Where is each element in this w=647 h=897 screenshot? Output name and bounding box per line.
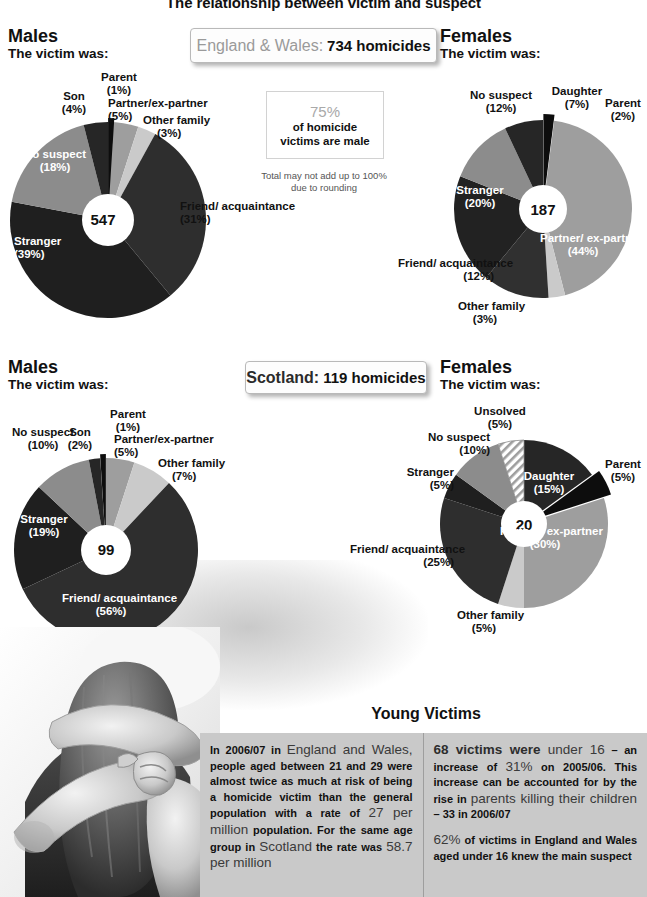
heading-ew-males: Males The victim was:	[8, 27, 109, 62]
pie-label-partner-ex-partner: Partner/ex-partner(5%)	[114, 433, 214, 458]
fact-callout-box: 75% of homicide victims are male	[266, 91, 384, 159]
region-count: 734 homicides	[327, 37, 430, 54]
gender-title: Females	[440, 27, 541, 46]
region-label: England & Wales:	[197, 37, 324, 55]
gender-title: Males	[8, 27, 109, 46]
pie-label-stranger: Stranger(5%)	[378, 466, 454, 491]
young-victims-panel: In 2006/07 in England and Wales, people …	[200, 733, 647, 897]
pie-label-other-family: Other family(3%)	[458, 300, 512, 325]
young-victims-paragraph-right-1: 68 victims were under 16 – an increase o…	[434, 742, 638, 823]
pie-label-partner-ex-partner: Partner/ ex-partner(30%)	[500, 525, 590, 550]
gender-subtitle: The victim was:	[8, 377, 109, 393]
gender-title: Males	[8, 358, 109, 377]
pie-label-friend-acquaintance: Friend/ acquaintance(12%)	[398, 257, 494, 282]
region-label: Scotland:	[246, 369, 319, 387]
pie-label-daughter: Daughter(7%)	[546, 85, 608, 110]
pie-label-stranger: Stranger(39%)	[14, 235, 61, 260]
pie-label-no-suspect: No suspect(18%)	[15, 148, 95, 173]
gender-subtitle: The victim was:	[8, 46, 109, 62]
infographic-page: The relationship between victim and susp…	[0, 0, 647, 897]
pie-label-friend-acquaintance: Friend/ acquaintance(25%)	[350, 543, 454, 568]
pie-label-parent: Parent(5%)	[600, 458, 646, 483]
pie-label-stranger: Stranger(20%)	[444, 184, 516, 209]
pie-label-partner-ex-partner: Partner/ ex-partner(44%)	[540, 232, 626, 257]
pie-label-unsolved: Unsolved(5%)	[462, 405, 538, 430]
pie-label-other-family: Other family(3%)	[143, 114, 210, 139]
rounding-note: Total may not add up to 100% due to roun…	[256, 170, 392, 194]
young-victims-paragraph-left: In 2006/07 in England and Wales, people …	[210, 742, 413, 872]
pie-label-friend-acquaintance: Friend/ acquaintance(56%)	[62, 592, 160, 617]
gender-subtitle: The victim was:	[440, 46, 541, 62]
pie-label-other-family: Other family(5%)	[457, 609, 511, 634]
pie-label-son: Son(2%)	[58, 426, 102, 451]
photo-distressed-person	[0, 627, 220, 897]
pie-center-value-sc-males: 99	[76, 541, 136, 558]
pie-label-daughter: Daughter(15%)	[514, 470, 584, 495]
region-count: 119 homicides	[323, 369, 426, 386]
heading-sc-females: Females The victim was:	[440, 358, 541, 393]
region-header-england-wales: England & Wales: 734 homicides	[190, 28, 437, 63]
pie-center-value-ew-males: 547	[73, 211, 133, 228]
fact-line-1: of homicide	[293, 120, 358, 134]
pie-label-other-family: Other family(7%)	[158, 457, 225, 482]
gender-title: Females	[440, 358, 541, 377]
pie-label-no-suspect: No suspect(10%)	[398, 431, 490, 456]
pie-label-son: Son(4%)	[46, 90, 102, 115]
pie-label-parent: Parent(1%)	[96, 408, 160, 433]
young-victims-left-column: In 2006/07 in England and Wales, people …	[200, 733, 424, 897]
pie-label-parent: Parent(2%)	[600, 97, 646, 122]
fact-number: 75%	[310, 103, 340, 120]
heading-ew-females: Females The victim was:	[440, 27, 541, 62]
pie-center-value-ew-females: 187	[513, 201, 573, 218]
young-victims-title: Young Victims	[205, 705, 647, 723]
photo-svg	[0, 627, 220, 897]
region-header-scotland: Scotland: 119 homicides	[245, 361, 427, 394]
gender-subtitle: The victim was:	[440, 377, 541, 393]
page-title: The relationship between victim and susp…	[0, 0, 647, 11]
pie-label-no-suspect: No suspect(12%)	[460, 89, 542, 114]
heading-sc-males: Males The victim was:	[8, 358, 109, 393]
young-victims-right-column: 68 victims were under 16 – an increase o…	[424, 733, 647, 897]
fact-line-2: victims are male	[280, 134, 370, 148]
pie-label-friend-acquaintance: Friend/ acquaintance(31%)	[180, 200, 295, 225]
pie-label-stranger: Stranger(19%)	[8, 513, 80, 538]
young-victims-paragraph-right-2: 62% of victims in England and Wales aged…	[434, 832, 638, 864]
